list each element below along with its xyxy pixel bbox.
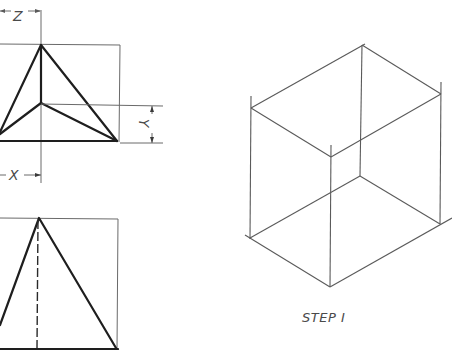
isometric-box xyxy=(245,44,452,287)
iso-bottom-front-left-edge xyxy=(245,235,330,287)
iso-right-vertical xyxy=(440,82,441,224)
iso-top-back-left-edge xyxy=(251,44,365,108)
top-view-right-edge xyxy=(119,45,120,142)
front-view-right-edge xyxy=(117,219,118,349)
y-arrow-bottom-icon xyxy=(150,137,154,143)
step-caption: STEP I xyxy=(302,311,345,324)
top-view xyxy=(0,9,163,183)
y-dimension-label: Y xyxy=(137,119,151,128)
iso-bottom-back-right-edge xyxy=(360,176,440,224)
iso-back-vertical xyxy=(360,45,362,176)
z-arrow-icon xyxy=(35,9,41,13)
front-view-top-edge xyxy=(0,218,118,219)
z-dimension-label: Z xyxy=(13,9,23,23)
iso-top-front-right-edge xyxy=(331,94,441,157)
top-view-top-edge xyxy=(0,44,120,45)
front-view-triangle xyxy=(0,218,116,348)
iso-top-front-left-edge xyxy=(251,108,331,157)
iso-top-back-right-edge xyxy=(362,45,441,94)
y-extension-top xyxy=(41,104,163,106)
y-arrow-top-icon xyxy=(150,106,154,112)
z-arrow-left-icon xyxy=(0,9,5,13)
pyramid-right-edge xyxy=(41,103,117,141)
iso-front-vertical xyxy=(330,145,331,287)
pyramid-outline xyxy=(0,45,117,141)
hidden-line xyxy=(37,220,38,348)
front-view xyxy=(0,218,118,349)
technical-drawing xyxy=(0,0,452,350)
iso-bottom-back-left-edge xyxy=(250,176,360,238)
iso-left-vertical xyxy=(250,96,251,239)
iso-bottom-front-right-edge xyxy=(330,218,452,287)
x-dimension-label: X xyxy=(9,168,19,182)
x-arrow-icon xyxy=(35,173,41,177)
